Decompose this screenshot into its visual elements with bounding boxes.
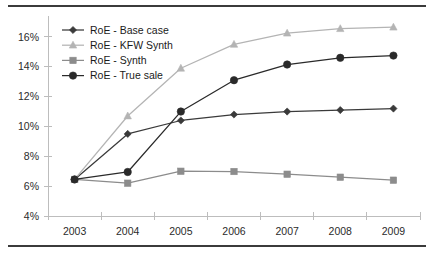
data-point-marker xyxy=(177,108,184,115)
data-point-marker xyxy=(71,176,78,183)
y-axis-tick-label: 16% xyxy=(18,31,39,43)
data-point-marker xyxy=(69,26,76,33)
data-point-marker xyxy=(390,105,397,112)
data-point-marker xyxy=(231,168,237,174)
x-axis-tick-label: 2003 xyxy=(63,225,87,237)
data-point-marker xyxy=(337,106,344,113)
data-point-marker xyxy=(125,180,131,186)
y-axis-tick-label: 8% xyxy=(24,150,39,162)
x-axis-tick-label: 2004 xyxy=(116,225,140,237)
data-series xyxy=(71,168,396,186)
data-point-marker xyxy=(230,77,237,84)
x-axis-tick-label: 2005 xyxy=(169,225,193,237)
x-axis-tick-label: 2006 xyxy=(222,225,246,237)
data-point-marker xyxy=(230,111,237,118)
data-point-marker xyxy=(124,168,131,175)
y-axis-tick-label: 12% xyxy=(18,90,39,102)
data-point-marker xyxy=(283,61,290,68)
data-point-marker xyxy=(390,52,397,59)
legend-item: RoE - Synth xyxy=(62,54,147,66)
x-axis-tick-label: 2009 xyxy=(382,225,406,237)
chart-legend: RoE - Base caseRoE - KFW SynthRoE - Synt… xyxy=(62,24,173,82)
data-point-marker xyxy=(284,171,290,177)
legend-item: RoE - KFW Synth xyxy=(62,39,173,51)
data-point-marker xyxy=(337,54,344,61)
y-axis-tick-labels: 4%6%8%10%12%14%16% xyxy=(18,31,52,222)
data-point-marker xyxy=(178,168,184,174)
legend-item-label: RoE - KFW Synth xyxy=(90,39,173,51)
bottom-divider-rule xyxy=(8,245,426,247)
line-chart: 4%6%8%10%12%14%16% 200320042005200620072… xyxy=(0,8,434,243)
legend-item: RoE - True sale xyxy=(62,69,163,81)
top-divider-rule xyxy=(8,5,426,7)
x-axis-tick-label: 2008 xyxy=(329,225,353,237)
figure-container: 4%6%8%10%12%14%16% 200320042005200620072… xyxy=(0,0,434,258)
data-point-marker xyxy=(284,108,291,115)
data-point-marker xyxy=(177,117,184,124)
y-axis-tick-label: 6% xyxy=(24,180,39,192)
data-point-marker xyxy=(70,57,76,63)
data-point-marker xyxy=(337,174,343,180)
legend-item-label: RoE - Base case xyxy=(90,24,169,36)
data-point-marker xyxy=(390,177,396,183)
y-axis-tick-label: 4% xyxy=(24,210,39,222)
y-axis-tick-label: 14% xyxy=(18,60,39,72)
data-point-marker xyxy=(390,23,397,30)
data-point-marker xyxy=(69,72,76,79)
x-axis-tick-label: 2007 xyxy=(275,225,299,237)
y-axis-tick-label: 10% xyxy=(18,120,39,132)
legend-item: RoE - Base case xyxy=(62,24,169,36)
legend-item-label: RoE - True sale xyxy=(90,69,163,81)
legend-item-label: RoE - Synth xyxy=(90,54,147,66)
